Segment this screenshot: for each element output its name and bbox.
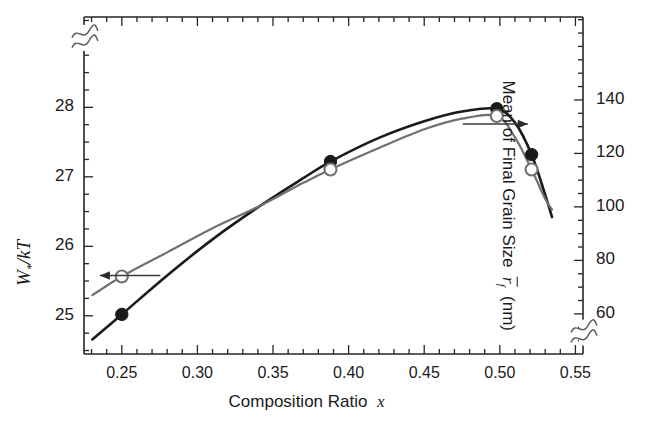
y-right-tick-label: 60 [596, 303, 640, 323]
x-tick-label: 0.35 [247, 364, 299, 382]
x-tick-label: 0.40 [323, 364, 375, 382]
series-line-2 [92, 115, 552, 295]
series-line-1 [92, 108, 552, 339]
right-axis-break-icon [571, 320, 597, 346]
y-right-tick-label: 100 [596, 196, 640, 216]
data-point-marker [526, 163, 538, 175]
right-axis-title: Mean of Final Grain Size rf (nm) [496, 0, 517, 416]
annotation-arrows [100, 120, 528, 280]
data-point-marker [525, 148, 537, 160]
x-tick-label: 0.55 [549, 364, 601, 382]
y-left-tick-label: 26 [32, 235, 74, 255]
y-right-tick-label: 80 [596, 249, 640, 269]
x-tick-label: 0.50 [474, 364, 526, 382]
y-right-tick-label: 140 [596, 89, 640, 109]
x-tick-label: 0.30 [171, 364, 223, 382]
data-point-marker [116, 308, 128, 320]
y-left-tick-label: 25 [32, 305, 74, 325]
y-left-tick-label: 28 [32, 96, 74, 116]
x-axis-title: Composition Ratio x [0, 392, 613, 412]
x-tick-label: 0.45 [398, 364, 450, 382]
data-curves [92, 108, 552, 339]
data-point-marker [116, 270, 128, 282]
y-left-tick-label: 27 [32, 166, 74, 186]
y-right-tick-label: 120 [596, 142, 640, 162]
left-axis-break-icon [72, 25, 98, 51]
x-tick-label: 0.25 [96, 364, 148, 382]
data-point-marker [324, 163, 336, 175]
data-markers [116, 103, 538, 321]
axis-break-symbols [72, 25, 597, 346]
